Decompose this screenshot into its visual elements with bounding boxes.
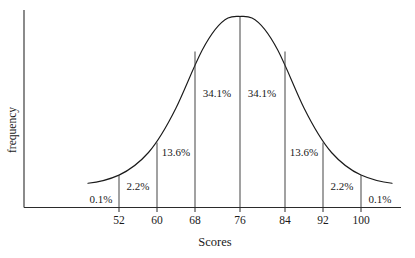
x-tick-label-92: 92	[317, 214, 329, 226]
pct-label-34-1-right: 34.1%	[248, 87, 276, 99]
x-tick-label-60: 60	[151, 214, 163, 226]
pct-label-0-1-right: 0.1%	[369, 193, 392, 205]
x-axis-title: Scores	[198, 235, 231, 249]
chart-canvas: 52 60 68 76 84 92 100 0.1% 2.2% 13.6% 34…	[0, 0, 415, 258]
y-axis-title: frequency	[6, 107, 19, 153]
pct-label-13-6-left: 13.6%	[162, 146, 190, 158]
pct-label-13-6-right: 13.6%	[290, 146, 318, 158]
pct-label-34-1-left: 34.1%	[203, 87, 231, 99]
x-tick-label-68: 68	[189, 214, 201, 226]
x-tick-label-100: 100	[352, 214, 370, 226]
x-tick-label-84: 84	[279, 214, 291, 226]
x-tick-label-76: 76	[234, 214, 246, 226]
pct-label-0-1-left: 0.1%	[90, 193, 113, 205]
pct-label-2-2-left: 2.2%	[127, 180, 150, 192]
pct-label-2-2-right: 2.2%	[331, 180, 354, 192]
x-tick-label-52: 52	[113, 214, 125, 226]
normal-distribution-chart: 52 60 68 76 84 92 100 0.1% 2.2% 13.6% 34…	[0, 0, 415, 258]
